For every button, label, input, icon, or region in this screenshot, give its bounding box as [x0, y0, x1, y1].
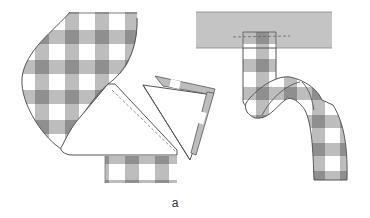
ribbon-twist [245, 77, 347, 180]
right-band-panel [196, 12, 347, 180]
figure-caption: a [160, 196, 190, 210]
ribbon-bottom-tail [105, 156, 177, 183]
ribbon-attached-top [243, 32, 276, 48]
ribbon-fold-diagram [0, 0, 370, 218]
